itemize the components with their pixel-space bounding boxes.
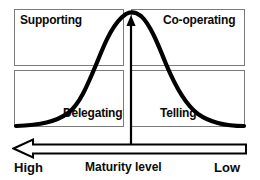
quadrant-label-supporting: Supporting bbox=[20, 13, 82, 27]
axis-label-high: High bbox=[14, 160, 43, 175]
axis-label-low: Low bbox=[214, 160, 240, 175]
axis-title-maturity-level: Maturity level bbox=[85, 160, 162, 174]
left-arrow-shape bbox=[14, 140, 247, 158]
situational-leadership-diagram: Supporting Co-operating Delegating Telli… bbox=[0, 0, 260, 180]
quadrant-label-delegating: Delegating bbox=[63, 106, 122, 120]
maturity-axis-arrow bbox=[12, 137, 248, 160]
quadrant-label-telling: Telling bbox=[160, 106, 196, 120]
quadrant-label-cooperating: Co-operating bbox=[163, 13, 235, 27]
